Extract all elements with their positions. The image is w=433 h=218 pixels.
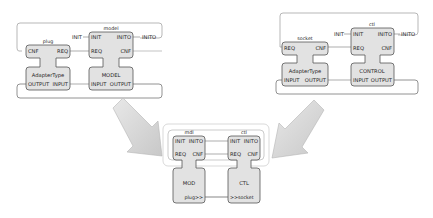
socket-input-port: INPUT bbox=[284, 77, 300, 83]
ctl-type-name: CONTROL bbox=[359, 68, 384, 74]
ctl-inito-port: INITO bbox=[378, 31, 392, 37]
socket-cnf-port: CNF bbox=[316, 45, 327, 51]
socket-adapter-block[interactable]: socket REQ CNF AdapterType INPUT OUTPUT bbox=[282, 36, 328, 86]
arrow-down-left-icon bbox=[272, 100, 324, 158]
socket-output-port: OUTPUT bbox=[305, 77, 327, 83]
plug-req-port: REQ bbox=[57, 48, 68, 54]
model-req-port: REQ bbox=[91, 48, 102, 54]
right-merge-arrow bbox=[272, 100, 324, 158]
ctl-cnf-port: CNF bbox=[382, 45, 393, 51]
model-type-name: MODEL bbox=[102, 72, 121, 78]
ctl-control-block[interactable]: ctl INIT INITO INIT INITO REQ CNF CONTRO… bbox=[334, 22, 415, 86]
ctl-ext-inito: INITO bbox=[401, 31, 415, 37]
plug-adapter-block[interactable]: plug CNF REQ AdapterType OUTPUT INPUT bbox=[26, 39, 70, 90]
socket-type-name: AdapterType bbox=[289, 68, 322, 75]
ctl-bottom-block[interactable]: ctl INIT INITO REQ CNF CTL >>socket bbox=[228, 130, 260, 203]
ctl-bottom-inito-port: INITO bbox=[244, 138, 258, 144]
arrow-down-right-icon bbox=[113, 98, 162, 156]
plug-cnf-port: CNF bbox=[28, 48, 39, 54]
ctl-output-port: OUTPUT bbox=[371, 77, 393, 83]
left-merge-arrow bbox=[113, 98, 162, 156]
ctl-bottom-cnf-port: CNF bbox=[248, 151, 259, 157]
ctl-socket-adapter-port: >>socket bbox=[230, 195, 254, 200]
mdl-inito-port: INITO bbox=[189, 138, 203, 144]
mdl-type-name: MOD bbox=[183, 180, 196, 186]
mdl-block[interactable]: mdl INIT INITO REQ CNF MOD plug>> bbox=[173, 130, 205, 203]
mdl-cnf-port: CNF bbox=[193, 151, 204, 157]
model-inito-port: INITO bbox=[117, 34, 131, 40]
mdl-req-port: REQ bbox=[175, 151, 186, 157]
plug-type-name: AdapterType bbox=[32, 72, 65, 79]
model-input-port: INPUT bbox=[91, 81, 107, 87]
model-output-port: OUTPUT bbox=[110, 81, 132, 87]
plug-instance-name: plug bbox=[43, 39, 53, 44]
socket-instance-name: socket bbox=[297, 36, 313, 41]
bottom-diagram: mdl INIT INITO REQ CNF MOD plug>> ctl IN… bbox=[163, 124, 269, 203]
ctl-req-port: REQ bbox=[353, 45, 364, 51]
plug-output-port: OUTPUT bbox=[28, 81, 50, 87]
model-ext-init: INIT bbox=[72, 34, 83, 40]
ctl-bottom-req-port: REQ bbox=[230, 151, 241, 157]
ctl-init-port: INIT bbox=[353, 31, 364, 37]
ctl-input-port: INPUT bbox=[353, 77, 369, 83]
ctl-instance-name: ctl bbox=[369, 22, 375, 27]
mdl-instance-name: mdl bbox=[184, 130, 193, 135]
mdl-plug-adapter-port: plug>> bbox=[184, 195, 203, 200]
ctl-bottom-type-name: CTL bbox=[239, 180, 249, 186]
model-cnf-port: CNF bbox=[121, 48, 132, 54]
mdl-init-port: INIT bbox=[175, 138, 186, 144]
socket-req-port: REQ bbox=[284, 45, 295, 51]
model-ext-inito: INITO bbox=[142, 34, 156, 40]
adapter-diagram-canvas: plug CNF REQ AdapterType OUTPUT INPUT mo… bbox=[0, 0, 433, 218]
model-init-port: INIT bbox=[91, 34, 102, 40]
plug-input-port: INPUT bbox=[52, 81, 68, 87]
ctl-ext-init: INIT bbox=[334, 31, 345, 37]
left-diagram: plug CNF REQ AdapterType OUTPUT INPUT mo… bbox=[17, 23, 162, 98]
model-block[interactable]: model INIT INITO INIT INITO REQ CNF MODE… bbox=[72, 26, 156, 90]
ctl-bottom-init-port: INIT bbox=[230, 138, 241, 144]
model-instance-name: model bbox=[104, 26, 119, 31]
right-diagram: socket REQ CNF AdapterType INPUT OUTPUT … bbox=[276, 13, 418, 94]
ctl-bottom-instance-name: ctl bbox=[241, 130, 247, 135]
